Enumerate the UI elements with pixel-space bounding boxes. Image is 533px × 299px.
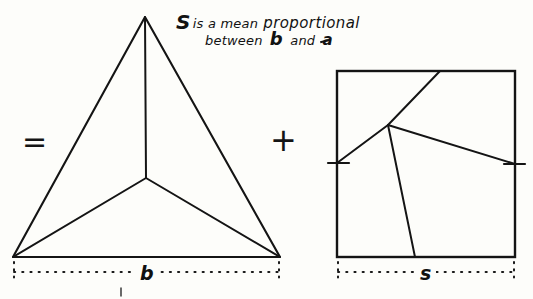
triangle-figure <box>13 17 280 257</box>
annotation-symbol-s: S <box>176 10 193 34</box>
annotation-half-a-fraction: a <box>321 31 334 49</box>
triangle-spoke-apex <box>145 17 146 178</box>
square-chord-to-left-tick <box>337 125 388 163</box>
diagram-page: Sis a mean proportional between b and a … <box>0 0 533 299</box>
triangle-spoke-right <box>146 178 280 257</box>
dimension-label-b: b <box>135 262 159 284</box>
annotation-line-2-mid: and <box>290 33 315 48</box>
plus-operator: + <box>270 121 297 159</box>
square-chord-to-top <box>388 71 440 125</box>
square-chord-to-bottom <box>388 125 415 257</box>
triangle-spoke-left <box>13 178 146 257</box>
square-figure <box>328 71 525 257</box>
annotation-line-2: between b and a <box>205 28 333 49</box>
dimension-label-s: s <box>415 262 436 284</box>
square-chord-to-right-tick <box>388 125 515 164</box>
annotation-symbol-b: b <box>268 28 285 49</box>
square-outline <box>337 71 515 257</box>
annotation-line-2-lead: between <box>205 33 263 48</box>
equals-operator: = <box>22 124 47 159</box>
